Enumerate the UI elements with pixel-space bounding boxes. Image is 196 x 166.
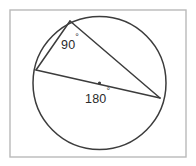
- geometry-figure-container: 90° 180°: [0, 0, 196, 166]
- circle-geometry-diagram: 90° 180°: [0, 0, 196, 166]
- circle-center-point: [98, 81, 101, 84]
